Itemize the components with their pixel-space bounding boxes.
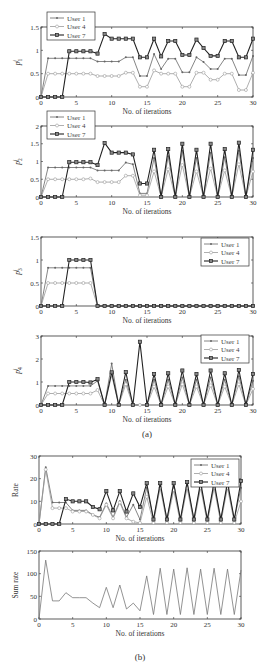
subplot-3: 05101520253000.511.5No. of iterationsp3j… [12,234,257,326]
legend-entry: User 1 [67,15,86,23]
figure-canvas: 05101520253000.511.5No. of iterationsp1j… [0,0,264,669]
legend: User 1User 4User 7 [47,111,95,139]
legend-entry: User 7 [67,32,86,40]
y-axis-label: p3j [12,268,23,276]
y-tick-label: 20 [30,475,38,483]
y-axis-label: p4j [12,367,23,375]
y-tick-label: 0 [36,194,40,202]
x-tick-label: 5 [75,99,79,107]
y-tick-label: 150 [27,548,38,556]
legend: User 1User 4User 7 [201,335,249,363]
y-axis-label: Rate [11,482,20,496]
legend: User 1User 4User 7 [191,459,239,487]
x-tick-label: 0 [39,407,43,415]
y-tick-label: 0.5 [30,70,39,78]
y-tick-label: 1.5 [30,234,39,242]
y-tick-label: 100 [27,570,38,578]
x-axis-label: No. of iterations [123,107,172,116]
x-tick-label: 30 [238,526,246,534]
x-tick-label: 0 [37,621,41,629]
x-tick-label: 25 [204,621,212,629]
x-axis-label: No. of iterations [123,415,172,424]
x-axis-label: No. of iterations [116,534,165,543]
legend-entry: User 7 [67,131,86,139]
y-tick-label: 0 [36,402,40,410]
legend-entry: User 7 [221,258,240,266]
legend-entry: User 7 [221,355,240,363]
x-tick-label: 20 [170,526,178,534]
legend-entry: User 4 [211,470,230,478]
series-line-user-1 [41,364,253,405]
y-tick-label: 3 [36,333,40,341]
y-tick-label: 10 [30,498,38,506]
x-tick-label: 10 [108,99,116,107]
subplot-1: 05101520253000.511.5No. of iterationsp1j… [12,12,257,116]
x-tick-label: 0 [39,99,43,107]
x-axis-label: No. of iterations [123,316,172,325]
x-tick-label: 5 [71,526,75,534]
legend-entry: User 4 [67,122,86,130]
x-tick-label: 30 [250,308,258,316]
x-tick-label: 25 [214,99,222,107]
x-tick-label: 0 [39,308,43,316]
y-tick-label: 0 [34,616,38,624]
x-tick-label: 10 [103,621,111,629]
caption-b: (b) [135,652,146,662]
x-tick-label: 30 [250,407,258,415]
series-line-user-1 [41,268,253,306]
x-tick-label: 15 [144,99,152,107]
x-tick-label: 10 [108,407,116,415]
legend-entry: User 4 [221,249,240,257]
x-tick-label: 15 [137,526,145,534]
legend-entry: User 1 [211,462,230,470]
x-tick-label: 10 [108,199,116,207]
x-tick-label: 20 [179,99,187,107]
y-tick-label: 1 [36,47,40,55]
y-tick-label: 1 [36,257,40,265]
x-tick-label: 25 [214,308,222,316]
y-tick-label: 0 [34,521,38,529]
y-tick-label: 1 [36,379,40,387]
series-line-user-7 [41,143,253,197]
y-tick-label: 1 [36,158,40,166]
series-line-sum-rate [39,560,241,619]
y-tick-label: 0 [36,94,40,102]
x-tick-label: 25 [214,199,222,207]
subplot-6: 051015202530050100150No. of iterationsSu… [11,548,245,639]
y-tick-label: 1.5 [30,24,39,32]
y-tick-label: 0.5 [30,280,39,288]
legend-entry: User 1 [221,338,240,346]
series-line-user-4 [41,283,253,306]
x-tick-label: 20 [179,308,187,316]
y-tick-label: 30 [30,453,38,461]
subplot-4: 0510152025300123No. of iterationsp4jUser… [12,333,257,425]
x-tick-label: 20 [179,199,187,207]
x-tick-label: 5 [75,407,79,415]
y-tick-label: 50 [30,593,38,601]
x-tick-label: 5 [75,308,79,316]
x-tick-label: 0 [39,199,43,207]
x-tick-label: 20 [170,621,178,629]
x-tick-label: 30 [250,99,258,107]
legend-entry: User 4 [67,23,86,31]
legend-entry: User 1 [221,241,240,249]
x-tick-label: 10 [103,526,111,534]
legend-entry: User 1 [67,114,86,122]
y-axis-label: Sum rate [11,571,20,599]
x-tick-label: 25 [214,407,222,415]
x-tick-label: 10 [108,308,116,316]
x-tick-label: 15 [144,199,152,207]
legend: User 1User 4User 7 [201,238,249,266]
series-line-user-4 [41,70,253,97]
y-tick-label: 2 [36,123,40,131]
y-tick-label: 0.5 [30,176,39,184]
legend-entry: User 7 [211,479,230,487]
y-tick-label: 1.5 [30,140,39,148]
x-tick-label: 25 [204,526,212,534]
legend: User 1User 4User 7 [47,12,95,40]
x-axis-label: No. of iterations [123,207,172,216]
y-axis-label: p1j [12,59,23,67]
subplot-2: 05101520253000.511.52No. of iterationsp2… [12,111,257,216]
x-axis-label: No. of iterations [116,629,165,638]
caption-a: (a) [142,429,152,439]
